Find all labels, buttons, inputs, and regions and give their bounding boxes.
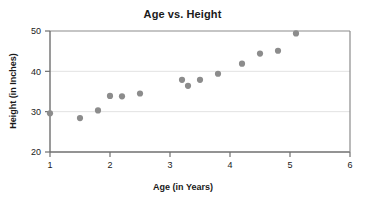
data-points-group — [47, 30, 299, 121]
y-tick-label-20: 20 — [31, 147, 41, 157]
y-axis-label: Height (in Inches) — [8, 53, 18, 129]
y-axis-ticks-group: 20304050 — [31, 26, 50, 157]
y-tick-label-40: 40 — [31, 67, 41, 77]
data-point-4 — [119, 93, 125, 99]
data-point-10 — [239, 61, 245, 67]
data-point-7 — [185, 83, 191, 89]
x-tick-label-6: 6 — [347, 160, 352, 170]
x-tick-label-1: 1 — [47, 160, 52, 170]
data-point-8 — [197, 77, 203, 83]
data-point-12 — [275, 48, 281, 54]
data-point-6 — [179, 77, 185, 83]
x-axis-ticks-group: 123456 — [47, 152, 352, 170]
chart-figure: Age vs. Height 20304050 123456 Age (in Y… — [0, 0, 365, 201]
data-point-13 — [293, 30, 299, 36]
data-point-1 — [77, 115, 83, 121]
x-tick-label-2: 2 — [107, 160, 112, 170]
data-point-11 — [257, 50, 263, 56]
scatter-plot: 20304050 123456 Age (in Years) Height (i… — [0, 0, 365, 201]
data-point-2 — [95, 107, 101, 113]
x-tick-label-5: 5 — [287, 160, 292, 170]
y-tick-label-30: 30 — [31, 107, 41, 117]
data-point-5 — [137, 90, 143, 96]
data-point-3 — [107, 93, 113, 99]
y-tick-label-50: 50 — [31, 26, 41, 36]
data-point-9 — [215, 71, 221, 77]
x-axis-label: Age (in Years) — [153, 182, 213, 192]
x-tick-label-4: 4 — [227, 160, 232, 170]
data-point-0 — [47, 110, 53, 116]
x-tick-label-3: 3 — [167, 160, 172, 170]
